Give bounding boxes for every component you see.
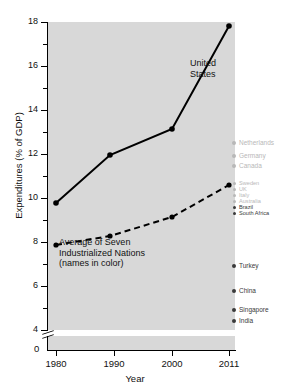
country-marker-canada: Canada bbox=[232, 162, 262, 169]
annotation-average-seven-line3: (names in color) bbox=[59, 258, 179, 269]
series-united-states-point bbox=[53, 200, 59, 206]
annotation-average-seven-line2: Industrialized Nations bbox=[59, 248, 179, 259]
country-marker-germany: Germany bbox=[232, 152, 266, 159]
chart-figure: 18 16 14 12 10 8 6 4 0 1980 1990 2000 20… bbox=[0, 0, 290, 390]
country-marker-south-africa: South Africa bbox=[233, 211, 269, 217]
annotation-united-states-line1: United bbox=[190, 58, 236, 69]
country-dot-icon bbox=[233, 200, 236, 203]
country-dot-icon bbox=[232, 289, 236, 293]
annotation-average-seven-line1: Average of Seven bbox=[59, 237, 179, 248]
country-marker-turkey: Turkey bbox=[232, 262, 259, 269]
country-label-canada: Canada bbox=[239, 162, 262, 169]
country-marker-singapore: Singapore bbox=[232, 306, 269, 313]
country-marker-netherlands: Netherlands bbox=[232, 139, 274, 146]
country-dot-icon bbox=[232, 164, 236, 168]
country-dot-icon bbox=[232, 154, 236, 158]
series-average-seven-point bbox=[226, 182, 231, 187]
country-dot-icon bbox=[233, 194, 236, 197]
series-united-states-point bbox=[169, 126, 175, 132]
country-dot-icon bbox=[232, 264, 236, 268]
country-label-south-africa: South Africa bbox=[239, 211, 269, 217]
country-dot-icon bbox=[233, 206, 236, 209]
country-dot-icon bbox=[233, 188, 236, 191]
annotation-united-states: United States bbox=[190, 58, 236, 79]
annotation-united-states-line2: States bbox=[190, 69, 236, 80]
country-dot-icon bbox=[232, 319, 236, 323]
country-dot-icon bbox=[233, 182, 236, 185]
country-label-germany: Germany bbox=[239, 152, 266, 159]
country-marker-china: China bbox=[232, 287, 256, 294]
country-dot-icon bbox=[232, 141, 236, 145]
country-dot-icon bbox=[232, 308, 236, 312]
country-label-turkey: Turkey bbox=[239, 262, 259, 269]
series-average-seven-point bbox=[169, 214, 174, 219]
series-average-seven-point bbox=[53, 242, 58, 247]
annotation-average-seven: Average of Seven Industrialized Nations … bbox=[59, 237, 179, 269]
series-united-states-point bbox=[107, 152, 113, 158]
country-label-singapore: Singapore bbox=[239, 306, 269, 313]
country-label-india: India bbox=[239, 317, 253, 324]
series-average-seven-line bbox=[56, 185, 229, 245]
series-united-states-point bbox=[226, 23, 232, 29]
country-marker-india: India bbox=[232, 317, 253, 324]
country-label-netherlands: Netherlands bbox=[239, 139, 274, 146]
series-united-states-line bbox=[56, 26, 229, 203]
country-dot-icon bbox=[233, 212, 236, 215]
country-label-china: China bbox=[239, 287, 256, 294]
